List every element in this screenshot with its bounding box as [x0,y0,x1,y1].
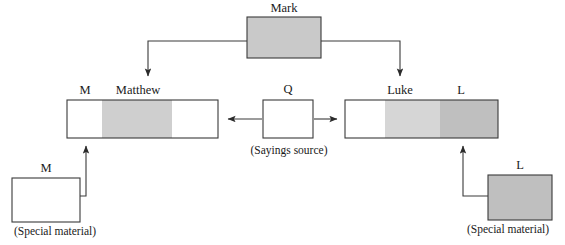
matthew-segment-triple-tradition[interactable] [102,100,172,138]
node-matthew[interactable] [67,100,218,138]
edge-m-source-to-matthew [80,146,86,196]
label-mark: Mark [270,1,297,16]
label-q-caption: (Sayings source) [251,144,328,156]
label-q: Q [283,82,292,97]
node-m-source[interactable] [12,178,80,222]
label-luke: Luke [387,83,413,98]
four-source-hypothesis-diagram: Mark M Matthew Q (Sayings source) Luke L… [0,0,565,245]
label-m-source: M [40,161,51,176]
label-matthew-m: M [79,83,90,98]
diagram-canvas [0,0,565,245]
l-source-box[interactable] [488,175,552,220]
luke-segment-special-l[interactable] [440,100,498,138]
label-l-source: L [516,158,524,173]
label-luke-l: L [457,83,465,98]
node-q[interactable] [263,100,313,138]
edge-mark-to-matthew [148,41,247,76]
luke-segment-markan[interactable] [345,100,385,138]
node-mark[interactable] [247,17,321,58]
q-box[interactable] [263,100,313,138]
node-l-source[interactable] [488,175,552,220]
luke-segment-q-material[interactable] [385,100,440,138]
node-luke[interactable] [345,100,498,138]
matthew-segment-q-material[interactable] [172,100,218,138]
m-source-box[interactable] [12,178,80,222]
mark-box[interactable] [247,17,321,58]
edge-mark-to-luke [321,41,400,76]
matthew-segment-special-m[interactable] [67,100,102,138]
label-l-source-caption: (Special material) [467,223,549,235]
edge-l-source-to-luke [463,146,488,196]
label-m-source-caption: (Special material) [14,225,96,237]
label-matthew: Matthew [116,83,160,98]
